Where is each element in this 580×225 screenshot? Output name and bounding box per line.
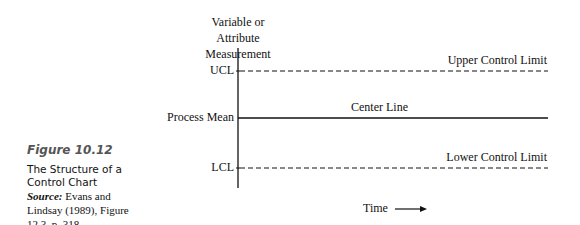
y-axis-label: Variable or Attribute Measurement <box>183 14 293 62</box>
figure-title: The Structure of a Control Chart <box>27 163 137 189</box>
y-axis-label-line2: Attribute Measurement <box>183 30 293 62</box>
upper-control-limit-label: Upper Control Limit <box>448 53 547 68</box>
lower-control-limit-label: Lower Control Limit <box>446 150 547 165</box>
figure-number: Figure 10.12 <box>27 143 113 157</box>
lcl-label: LCL <box>211 160 234 175</box>
source-label: Source: <box>27 190 62 202</box>
x-axis-label: Time <box>363 201 388 216</box>
y-axis-label-line1: Variable or <box>183 14 293 30</box>
ucl-label: UCL <box>210 63 234 78</box>
time-arrow-icon <box>420 206 427 212</box>
figure-source: Source: Evans and Lindsay (1989), Figure… <box>27 189 137 225</box>
center-line-label: Center Line <box>351 100 408 115</box>
process-mean-label: Process Mean <box>167 110 234 125</box>
